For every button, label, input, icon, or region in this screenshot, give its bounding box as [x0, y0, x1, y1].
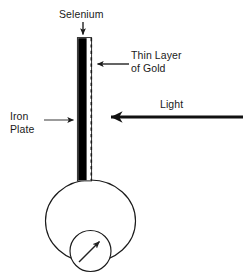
label-iron-plate: Iron Plate	[10, 110, 34, 135]
selenium-bar	[78, 38, 86, 180]
diagram-canvas	[0, 0, 243, 274]
photoelectric-cell-diagram: Selenium Thin Layer of Gold Iron Plate L…	[0, 0, 243, 274]
label-thin-layer-of-gold: Thin Layer of Gold	[131, 49, 182, 74]
label-light: Light	[160, 98, 183, 111]
label-selenium: Selenium	[59, 8, 104, 21]
